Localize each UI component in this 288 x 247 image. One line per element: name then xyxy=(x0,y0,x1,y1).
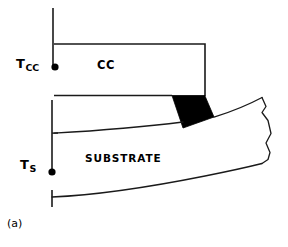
substrate-bottom-curve xyxy=(52,164,262,198)
figure-caption: (a) xyxy=(7,218,22,229)
ts-label: TS xyxy=(20,158,36,171)
substrate-region-label: SUBSTRATE xyxy=(85,153,162,164)
tcc-label: TCC xyxy=(16,57,39,70)
figure-container: TCC TS CC SUBSTRATE (a) xyxy=(0,0,288,247)
tcc-label-subscript: CC xyxy=(25,62,39,73)
tcc-label-base: T xyxy=(16,56,25,71)
ts-label-subscript: S xyxy=(29,163,36,174)
figure-drawing xyxy=(0,0,288,247)
tcc-measurement-dot xyxy=(51,63,58,70)
substrate-top-curve-left xyxy=(54,122,183,133)
cc-region-label: CC xyxy=(97,60,115,72)
substrate-top-curve-right xyxy=(214,98,262,118)
cc-layer-outline xyxy=(54,44,205,96)
ts-label-base: T xyxy=(20,157,29,172)
substrate-break-edge xyxy=(262,98,271,164)
ts-measurement-dot xyxy=(48,168,55,175)
